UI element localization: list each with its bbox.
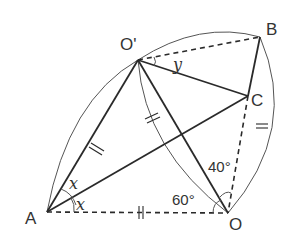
angle-label-60: 60° [172,191,195,208]
segment-C-O [228,96,248,213]
angle-label-x-upper: x [69,174,78,193]
angle-label-y: y [172,55,183,74]
point-label-O: O [229,215,242,234]
point-label-A: A [25,209,37,228]
tick-mark-A-Oprime [89,143,104,155]
segment-Oprime-B [138,37,260,60]
segment-A-Oprime [47,60,138,212]
angle-label-40: 40° [208,158,231,175]
tick-mark-B-O-arc [256,124,268,128]
point-label-C: C [251,91,263,110]
arc-B-O [228,37,274,213]
point-label-B: B [266,20,277,39]
angle-arc-O-40 [219,192,231,198]
angle-label-x-lower: x [76,195,85,214]
point-label-Oprime: O' [120,35,136,54]
geometry-diagram: A O O' B C x x y 60° 40° [0,0,297,241]
segment-A-O [47,212,228,213]
segment-B-C [248,37,260,96]
